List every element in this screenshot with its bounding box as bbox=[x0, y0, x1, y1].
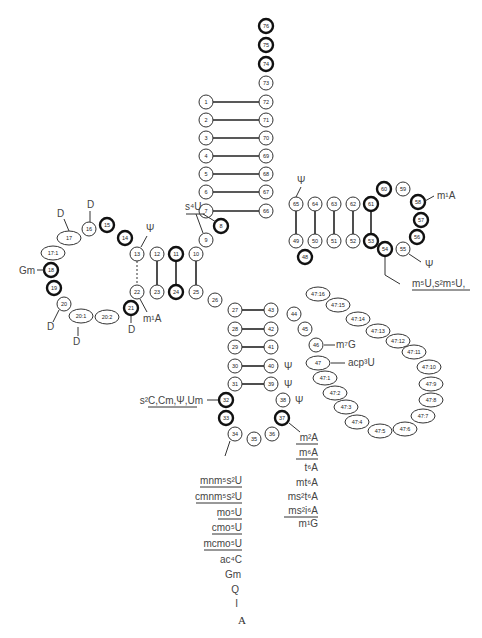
svg-text:4: 4 bbox=[204, 153, 207, 159]
svg-text:25: 25 bbox=[193, 289, 199, 295]
svg-text:8: 8 bbox=[219, 223, 222, 229]
svg-text:17: 17 bbox=[66, 235, 72, 241]
svg-text:7: 7 bbox=[204, 208, 207, 214]
svg-text:73: 73 bbox=[263, 80, 269, 86]
svg-text:47: 47 bbox=[315, 360, 321, 366]
svg-text:56: 56 bbox=[414, 234, 420, 240]
svg-text:47:15: 47:15 bbox=[331, 302, 345, 308]
svg-text:58: 58 bbox=[415, 199, 421, 205]
svg-text:36: 36 bbox=[269, 431, 275, 437]
svg-text:47:5: 47:5 bbox=[375, 428, 386, 434]
svg-text:44: 44 bbox=[291, 311, 297, 317]
d-arm: 10 11 12 13 14 15 16 17 17:1 18 19 20 20… bbox=[19, 199, 222, 347]
svg-text:72: 72 bbox=[263, 99, 269, 105]
psi38-label: Ψ bbox=[295, 395, 303, 406]
svg-text:52: 52 bbox=[350, 238, 356, 244]
svg-text:21: 21 bbox=[128, 305, 134, 311]
svg-text:64: 64 bbox=[312, 201, 318, 207]
svg-text:16: 16 bbox=[86, 226, 92, 232]
svg-text:62: 62 bbox=[350, 201, 356, 207]
svg-text:34: 34 bbox=[232, 431, 238, 437]
mod37-3: mt⁶A bbox=[296, 477, 318, 488]
svg-text:20:1: 20:1 bbox=[76, 313, 87, 319]
m7g46-label: m⁷G bbox=[336, 339, 356, 350]
svg-text:47:7: 47:7 bbox=[418, 413, 429, 419]
svg-text:47:12: 47:12 bbox=[391, 338, 405, 344]
svg-text:45: 45 bbox=[302, 326, 308, 332]
svg-text:74: 74 bbox=[263, 61, 269, 67]
acceptor-stem: 76 75 74 73 72 71 70 69 68 67 66 1 2 3 4… bbox=[199, 19, 273, 218]
svg-text:19: 19 bbox=[51, 285, 57, 291]
m1a58-label-visible: m¹A bbox=[437, 190, 456, 201]
svg-text:43: 43 bbox=[268, 307, 274, 313]
svg-text:18: 18 bbox=[48, 267, 54, 273]
svg-text:26: 26 bbox=[212, 297, 218, 303]
svg-text:17:1: 17:1 bbox=[48, 250, 59, 256]
svg-text:65: 65 bbox=[293, 201, 299, 207]
svg-text:75: 75 bbox=[263, 42, 269, 48]
svg-text:51: 51 bbox=[331, 238, 337, 244]
svg-text:32: 32 bbox=[223, 397, 229, 403]
svg-text:42: 42 bbox=[268, 326, 274, 332]
svg-text:47:2: 47:2 bbox=[330, 390, 341, 396]
psi39-label: Ψ bbox=[284, 379, 292, 390]
mod37-2: t⁶A bbox=[304, 462, 318, 473]
svg-text:70: 70 bbox=[263, 135, 269, 141]
svg-text:30: 30 bbox=[232, 363, 238, 369]
mod37-0: m²A bbox=[300, 432, 319, 443]
svg-text:5: 5 bbox=[204, 171, 207, 177]
mod37-1: m⁶A bbox=[299, 447, 318, 458]
psi40-label: Ψ bbox=[284, 361, 292, 372]
d20-label: D bbox=[47, 321, 54, 332]
psi13-label: Ψ bbox=[146, 223, 154, 234]
t-arm: 65 64 63 62 61 60 59 58 57 56 55 54 53 5… bbox=[289, 175, 470, 290]
svg-text:63: 63 bbox=[331, 201, 337, 207]
d16-label: D bbox=[87, 199, 94, 210]
mod34-5: ac⁴C bbox=[220, 554, 242, 565]
svg-text:33: 33 bbox=[223, 415, 229, 421]
svg-text:20: 20 bbox=[61, 301, 67, 307]
d17-label: D bbox=[57, 208, 64, 219]
mod37-6: m¹G bbox=[299, 518, 319, 529]
svg-text:47:3: 47:3 bbox=[341, 404, 352, 410]
svg-text:71: 71 bbox=[263, 117, 269, 123]
svg-text:54: 54 bbox=[382, 246, 388, 252]
mod34-0: mnm⁵s²U bbox=[200, 475, 242, 486]
svg-text:47:8: 47:8 bbox=[426, 397, 437, 403]
svg-text:47:16: 47:16 bbox=[311, 291, 325, 297]
svg-text:47:6: 47:6 bbox=[400, 426, 411, 432]
svg-text:20:2: 20:2 bbox=[102, 314, 113, 320]
svg-text:11: 11 bbox=[173, 251, 179, 257]
svg-text:14: 14 bbox=[122, 235, 128, 241]
svg-text:57: 57 bbox=[418, 217, 424, 223]
svg-text:46: 46 bbox=[313, 342, 319, 348]
s2c32-label: s²C,Cm,Ψ,Um bbox=[140, 395, 203, 406]
svg-text:1: 1 bbox=[204, 99, 207, 105]
svg-text:55: 55 bbox=[400, 246, 406, 252]
svg-text:47:14: 47:14 bbox=[351, 316, 365, 322]
svg-text:35: 35 bbox=[251, 436, 257, 442]
svg-text:47:4: 47:4 bbox=[352, 419, 363, 425]
acp3u47-label: acp³U bbox=[348, 357, 375, 368]
svg-text:31: 31 bbox=[232, 381, 238, 387]
variable-loop: 44 45 46 47 47:1 47:2 47:3 47:4 47:5 47:… bbox=[287, 287, 443, 438]
svg-text:24: 24 bbox=[173, 289, 179, 295]
mod34-3: cmo⁵U bbox=[212, 522, 242, 533]
m5u54-label: m⁵U,s²m⁵U, bbox=[412, 278, 465, 289]
svg-text:47:1: 47:1 bbox=[320, 375, 331, 381]
svg-text:22: 22 bbox=[134, 289, 140, 295]
psi65-label: Ψ bbox=[297, 175, 305, 186]
psi55-label: Ψ bbox=[425, 259, 433, 270]
svg-text:47:13: 47:13 bbox=[371, 328, 385, 334]
mod34-6: Gm bbox=[225, 569, 241, 580]
svg-text:48: 48 bbox=[302, 254, 308, 260]
svg-text:37: 37 bbox=[279, 415, 285, 421]
svg-text:6: 6 bbox=[204, 189, 207, 195]
svg-text:53: 53 bbox=[368, 238, 374, 244]
trna-cloverleaf-diagram: 76 75 74 73 72 71 70 69 68 67 66 1 2 3 4… bbox=[0, 0, 482, 638]
svg-text:10: 10 bbox=[193, 251, 199, 257]
svg-text:47:11: 47:11 bbox=[407, 349, 420, 355]
svg-text:67: 67 bbox=[263, 189, 269, 195]
mod37-5: ms²i⁶A bbox=[288, 505, 318, 516]
anticodon-arm: 27 28 29 30 31 32 33 34 35 36 37 38 39 4… bbox=[140, 303, 304, 456]
